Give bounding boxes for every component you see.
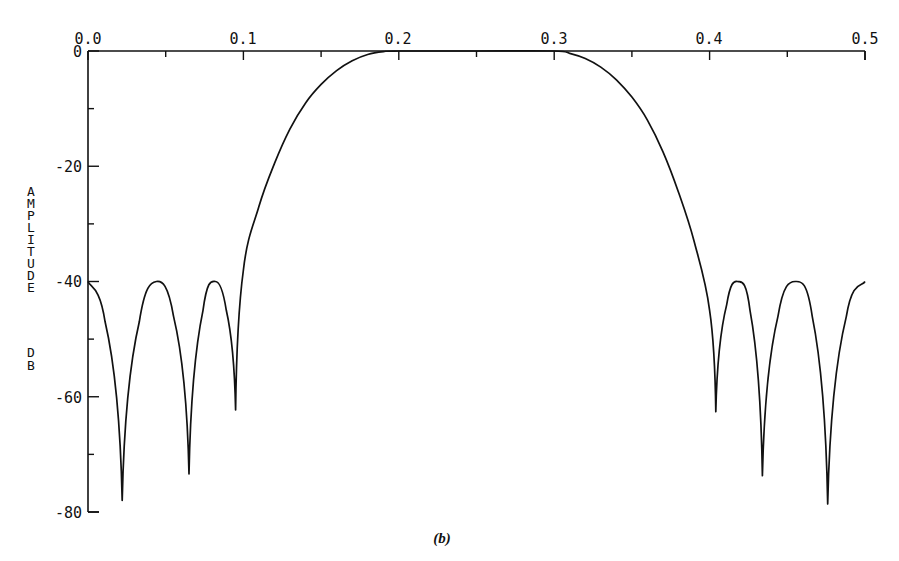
y-tick-label: -20 bbox=[55, 158, 82, 176]
y-ticks bbox=[88, 51, 99, 512]
y-axis-label: A M P L I T U D E D B bbox=[27, 184, 35, 373]
x-tick-label: 0.2 bbox=[384, 30, 411, 48]
ylabel-letter: E bbox=[27, 280, 35, 295]
x-tick-label: 0.4 bbox=[695, 30, 722, 48]
figure-caption: (b) bbox=[433, 530, 451, 547]
ylabel-letter: B bbox=[27, 358, 35, 373]
x-tick-label: 0.5 bbox=[851, 30, 878, 48]
chart: 0.0 0.1 0.2 0.3 0.4 0.5 0 -20 -40 -60 -8… bbox=[0, 0, 899, 561]
y-tick-labels: 0 -20 -40 -60 -80 bbox=[55, 43, 82, 522]
y-tick-label: -60 bbox=[55, 389, 82, 407]
x-ticks bbox=[88, 51, 865, 60]
x-tick-label: 0.1 bbox=[229, 30, 256, 48]
y-tick-label: 0 bbox=[73, 43, 82, 61]
x-tick-label: 0.3 bbox=[540, 30, 567, 48]
y-tick-label: -40 bbox=[55, 273, 82, 291]
response-curve bbox=[88, 51, 865, 504]
y-tick-label: -80 bbox=[55, 504, 82, 522]
x-tick-labels: 0.0 0.1 0.2 0.3 0.4 0.5 bbox=[74, 30, 878, 48]
axes bbox=[88, 51, 865, 512]
